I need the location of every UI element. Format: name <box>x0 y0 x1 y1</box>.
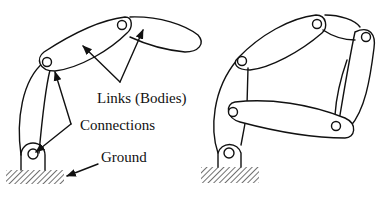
joint-circle <box>332 122 341 131</box>
label-connections: Connections <box>80 117 155 133</box>
label-ground: Ground <box>101 149 147 165</box>
link-body-lower <box>228 101 353 138</box>
joint-circle <box>118 21 127 30</box>
joint-circle <box>224 148 234 158</box>
ground-arrow <box>67 164 98 176</box>
joint-circle <box>362 33 371 42</box>
right-linkage <box>201 15 374 183</box>
joint-circle <box>238 57 247 66</box>
connections-arrow <box>55 72 71 124</box>
joint-circle <box>43 58 52 67</box>
ground-block <box>6 170 64 184</box>
joint-circle <box>313 20 322 29</box>
label-links: Links (Bodies) <box>97 90 187 107</box>
link-body-right <box>339 30 375 128</box>
ground-block <box>201 167 259 183</box>
joint-circle <box>229 108 238 117</box>
joint-circle <box>28 149 38 159</box>
linkage-diagram: Links (Bodies) Connections Ground <box>0 0 382 204</box>
left-linkage: Links (Bodies) Connections Ground <box>6 17 201 184</box>
